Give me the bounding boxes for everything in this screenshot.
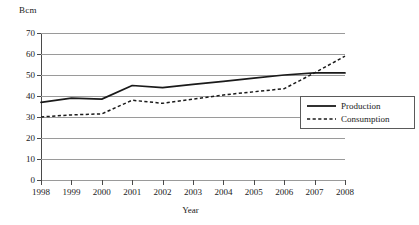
- y-tick-label-50: 50: [26, 70, 35, 80]
- x-tick-label-2000: 2000: [93, 187, 111, 197]
- y-axis-unit-label: Bcm: [19, 5, 37, 15]
- x-tick-label-1998: 1998: [32, 187, 50, 197]
- y-tick-label-70: 70: [26, 28, 35, 38]
- x-axis-title: Year: [0, 205, 419, 215]
- x-tick-1998: [41, 180, 42, 185]
- x-tick-label-2003: 2003: [184, 187, 202, 197]
- x-tick-label-2001: 2001: [123, 187, 141, 197]
- x-tick-2005: [254, 180, 255, 185]
- x-tick-label-1999: 1999: [62, 187, 80, 197]
- y-tick-label-30: 30: [26, 112, 35, 122]
- x-tick-label-2002: 2002: [154, 187, 172, 197]
- y-tick-label-60: 60: [26, 49, 35, 59]
- x-tick-2008: [345, 180, 346, 185]
- legend-swatch-dashed-icon: [305, 114, 338, 124]
- x-tick-2006: [284, 180, 285, 185]
- y-tick-label-20: 20: [26, 133, 35, 143]
- legend-swatch-solid-icon: [305, 101, 338, 111]
- legend-item-production: Production: [301, 99, 414, 112]
- x-tick-2007: [315, 180, 316, 185]
- chart-screenshot: Bcm 010203040506070 19981999200020012002…: [0, 0, 419, 225]
- y-tick-label-40: 40: [26, 91, 35, 101]
- x-tick-label-2005: 2005: [245, 187, 263, 197]
- legend-label-production: Production: [341, 101, 381, 111]
- x-tick-label-2006: 2006: [275, 187, 293, 197]
- x-tick-2000: [102, 180, 103, 185]
- x-axis-title-text: Year: [182, 205, 199, 215]
- x-tick-2004: [223, 180, 224, 185]
- x-tick-label-2008: 2008: [336, 187, 354, 197]
- x-tick-1999: [71, 180, 72, 185]
- legend-item-consumption: Consumption: [301, 112, 414, 125]
- x-tick-label-2007: 2007: [306, 187, 324, 197]
- x-tick-label-2004: 2004: [214, 187, 232, 197]
- y-tick-label-10: 10: [26, 154, 35, 164]
- x-tick-2003: [193, 180, 194, 185]
- chart-legend: Production Consumption: [300, 96, 415, 129]
- legend-label-consumption: Consumption: [341, 114, 390, 124]
- x-tick-2002: [163, 180, 164, 185]
- y-tick-label-0: 0: [31, 175, 36, 185]
- x-tick-2001: [132, 180, 133, 185]
